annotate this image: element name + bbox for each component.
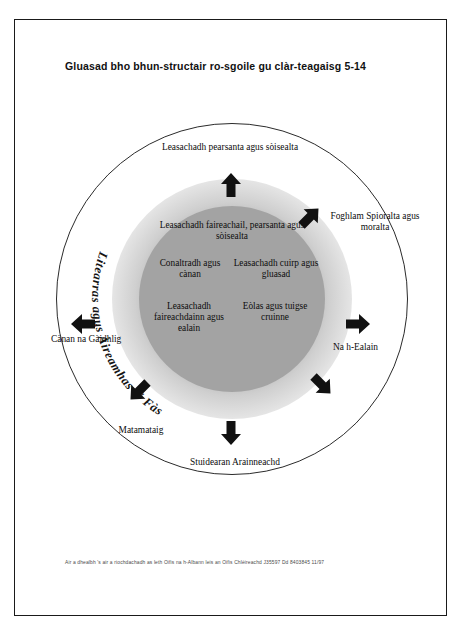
outer-label-mathematics: Matamataig: [91, 425, 191, 436]
outer-label-environmental-studies: Stuidearan Arainneachd: [170, 457, 300, 468]
core-label-emotional-personal-social: Leasachadh faireachail, pearsanta agus s…: [151, 220, 313, 242]
core-label-expressive-aesthetic: Leasachadh faireachdainn agus ealain: [147, 301, 231, 334]
core-label-knowledge-understanding: Eòlas agus tuigse cruinne: [233, 301, 317, 323]
arrow-down-left-icon: [126, 378, 152, 404]
outer-label-expressive-arts: Na h-Ealain: [333, 342, 443, 353]
arrow-right-icon: [345, 311, 371, 337]
outer-label-religious-moral: Foghlam Spioralta agus moralta: [315, 211, 435, 233]
arrow-up-right-icon: [297, 204, 323, 230]
concentric-circle-diagram: Litearras agus Àireamhas a' Fàs Leasacha…: [15, 20, 448, 617]
core-label-communication-language: Conaltradh agus cànan: [151, 258, 229, 280]
footer-imprint: Air a dhealbh 's air a riochdachadh as l…: [65, 560, 415, 565]
core-label-physical-movement: Leasachadh cuirp agus gluasad: [233, 258, 319, 280]
page-frame: Gluasad bho bhun-structair ro-sgoile gu …: [14, 19, 447, 616]
arrow-left-icon: [70, 311, 96, 337]
arrow-up-icon: [218, 172, 244, 198]
arrow-down-right-icon: [309, 372, 335, 398]
outer-label-personal-social: Leasachadh pearsanta agus sòisealta: [135, 142, 325, 153]
arrow-down-icon: [218, 420, 244, 446]
